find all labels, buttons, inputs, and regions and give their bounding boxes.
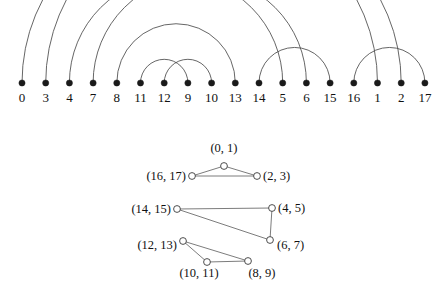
arc-node-4 <box>66 80 72 86</box>
arc-node-14 <box>256 80 262 86</box>
arc-node-label-3: 3 <box>42 90 49 105</box>
arc-node-label-7: 7 <box>90 90 97 105</box>
arc-node-label-2: 2 <box>398 90 405 105</box>
arc-0-1 <box>22 0 378 83</box>
arc-node-15 <box>327 80 333 86</box>
arc-diagram-arcs <box>22 0 425 83</box>
arc-16-17 <box>354 47 425 83</box>
pair-node-label-14_15: (14, 15) <box>131 202 171 216</box>
arc-node-17 <box>422 80 428 86</box>
arc-node-label-10: 10 <box>205 90 218 105</box>
arc-node-label-13: 13 <box>229 90 242 105</box>
arc-node-label-11: 11 <box>134 90 147 105</box>
pair-node-16_17 <box>189 173 196 180</box>
arc-node-5 <box>280 80 286 86</box>
arc-node-label-1: 1 <box>374 90 381 105</box>
arc-diagram-nodes <box>19 80 428 86</box>
arc-node-0 <box>19 80 25 86</box>
arc-node-11 <box>137 80 143 86</box>
arc-node-label-15: 15 <box>324 90 337 105</box>
arc-node-label-14: 14 <box>253 90 267 105</box>
pair-node-14_15 <box>174 206 181 213</box>
pair-graph-edges <box>177 166 272 262</box>
pair-node-label-2_3: (2, 3) <box>263 169 290 183</box>
arc-node-8 <box>114 80 120 86</box>
arc-node-16 <box>351 80 357 86</box>
arc-node-label-12: 12 <box>158 90 171 105</box>
arc-node-label-4: 4 <box>66 90 73 105</box>
arc-node-13 <box>232 80 238 86</box>
arc-node-9 <box>185 80 191 86</box>
arc-node-label-5: 5 <box>279 90 286 105</box>
arc-node-2 <box>398 80 404 86</box>
arc-node-label-16: 16 <box>347 90 361 105</box>
arc-diagram-node-labels: 03478111291013145615161217 <box>19 90 432 105</box>
arc-node-1 <box>374 80 380 86</box>
arc-and-pair-graph-figure: 03478111291013145615161217 (0, 1)(16, 17… <box>0 0 448 289</box>
pair-edge-14_15--4_5 <box>177 208 272 209</box>
pair-node-12_13 <box>180 238 187 245</box>
pair-node-label-0_1: (0, 1) <box>210 141 237 155</box>
pair-node-label-10_11: (10, 11) <box>179 266 218 280</box>
arc-14-15 <box>259 47 330 83</box>
arc-node-10 <box>209 80 215 86</box>
pair-edge-10_11--8_9 <box>207 261 248 262</box>
pair-edge-14_15--6_7 <box>177 209 270 240</box>
pair-edge-12_13--10_11 <box>183 241 207 262</box>
pair-node-label-4_5: (4, 5) <box>278 201 305 215</box>
pair-edge-16_17--0_1 <box>192 166 224 176</box>
arc-3-2 <box>46 0 402 83</box>
pair-node-6_7 <box>267 237 274 244</box>
pair-node-label-8_9: (8, 9) <box>248 266 275 280</box>
pair-edge-0_1--2_3 <box>224 166 257 176</box>
arc-node-7 <box>90 80 96 86</box>
pair-node-10_11 <box>204 259 211 266</box>
arc-node-label-8: 8 <box>114 90 121 105</box>
arc-8-13 <box>117 24 236 83</box>
arc-node-12 <box>161 80 167 86</box>
pair-node-4_5 <box>269 205 276 212</box>
pair-node-8_9 <box>245 258 252 265</box>
pair-edge-4_5--6_7 <box>270 208 272 240</box>
arc-node-label-9: 9 <box>185 90 192 105</box>
pair-graph-nodes <box>174 163 276 266</box>
arc-node-label-0: 0 <box>19 90 26 105</box>
pair-node-label-6_7: (6, 7) <box>277 238 304 252</box>
pair-node-0_1 <box>221 163 228 170</box>
arc-node-label-17: 17 <box>418 90 432 105</box>
arc-node-label-6: 6 <box>303 90 310 105</box>
pair-edge-12_13--8_9 <box>183 241 248 261</box>
pair-graph-node-labels: (0, 1)(16, 17)(2, 3)(14, 15)(4, 5)(6, 7)… <box>131 141 305 280</box>
arc-node-6 <box>303 80 309 86</box>
pair-node-2_3 <box>254 173 261 180</box>
arc-node-3 <box>43 80 49 86</box>
pair-node-label-16_17: (16, 17) <box>146 169 186 183</box>
pair-node-label-12_13: (12, 13) <box>137 238 177 252</box>
